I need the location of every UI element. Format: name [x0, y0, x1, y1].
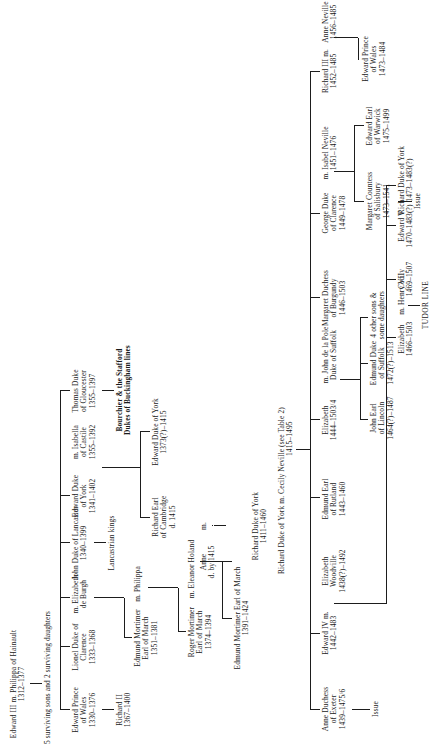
connector-delapole-children-bus — [360, 318, 361, 420]
connector-york-children-bus — [140, 432, 141, 518]
label-tudor-line: TUDOR LINE — [422, 274, 430, 336]
connector-lionel-to-philippa — [94, 597, 124, 598]
connector-gen1-drop-6 — [60, 390, 70, 391]
connector-roger-children-bus — [222, 562, 223, 619]
connector-drop-edmund-rutland — [310, 497, 320, 498]
node-issue-exeter: Issue — [372, 692, 380, 726]
connector-union-tick — [212, 525, 213, 526]
node-richard-earl-of-cambridge: Richard Earl of Cambridge d. 1415 — [152, 488, 177, 546]
connector-roger-drop — [178, 631, 186, 632]
node-john-earl-of-lincoln: John Earl of Lincoln 1464(?)–1487 — [370, 390, 395, 446]
node-eleanor-holand: m. Eleanor Holand — [188, 536, 196, 602]
connector-gen1-drop-3 — [60, 597, 70, 598]
node-edward-duke-of-york-2: Edward Duke of York 1373(?)–1415 — [152, 392, 169, 472]
root-dates: 1312–1377 — [18, 624, 26, 744]
node-edward-iii-root: Edward III m. Philippa of Hainault 1312–… — [10, 624, 27, 744]
connector-edward-iv-stem — [334, 603, 386, 604]
connector-drop-elizabeth — [310, 419, 320, 420]
node-anne-mortimer: Anne d. by 1415 — [200, 536, 217, 588]
connector-gen1-bus — [60, 496, 61, 710]
node-richard-york-cecily-neville-union: Richard Duke of York m. Cecily Neville (… — [278, 334, 295, 574]
node-elizabeth-of-york: Elizabeth 1466–1503 — [398, 314, 415, 364]
node-edmund-mortimer-earl-of-march: Edmund Mortimer Earl of March 1351–1381 — [134, 606, 159, 670]
node-edmund-mortimer-earl-of-march-2: Edmund Mortimer Earl of March 1391–1424 — [234, 560, 251, 676]
rotated-chart-frame: Edward III m. Philippa of Hainault 1312–… — [0, 0, 437, 750]
connector-drop-richard-iii — [310, 71, 320, 72]
connector-delapole-stem — [340, 379, 360, 380]
connector-york-family-stem — [296, 449, 310, 450]
connector-drop-edmund2 — [222, 618, 232, 619]
node-cecily: Cecily 1469–1507 — [398, 256, 415, 302]
node-edward-prince-of-wales-2: Edward Prince of Wales 1473–1484 — [362, 30, 387, 88]
node-edward-iv: Edward IV m. 1442–1483 — [322, 604, 339, 662]
node-other-children-suffolk: 4 other sons & some daughters — [370, 284, 387, 346]
connector-clarence-children-bus — [354, 126, 355, 202]
connector-henry-vii-to-tudor — [408, 305, 420, 306]
node-issue-salisbury: Issue — [414, 184, 422, 218]
connector-drop-cambridge — [140, 517, 150, 518]
node-roger-mortimer-earl-of-march: Roger Mortimer Earl of March 1374–1394 — [188, 600, 213, 664]
connector-clarence-stem — [334, 171, 354, 172]
connector-york-children-stem — [102, 467, 140, 468]
connector-drop-margaret-burgundy — [310, 297, 320, 298]
node-margaret-countess-of-salisbury: Margaret Countess of Salisbury 1473–1541 — [366, 166, 391, 236]
connector-drop-edward-york2 — [140, 431, 150, 432]
connector-gen1-drop-1 — [60, 709, 70, 710]
node-philippa: m. Philippa — [134, 562, 142, 606]
connector-philippa-to-roger — [148, 587, 178, 588]
connector-drop-anne-exeter — [310, 709, 320, 710]
connector-drop-george-clarence — [310, 213, 320, 214]
connector-drop-john-lincoln — [360, 419, 368, 420]
connector-drop-anne — [222, 561, 232, 562]
node-richard-ii: Richard II 1367–1400 — [116, 684, 133, 736]
connector-drop-edmund-suffolk — [360, 363, 368, 364]
node-elizabeth-woodville: Elizabeth Woodville 1438(?)–1492 — [322, 540, 347, 602]
connector-richard-iii-stem — [334, 37, 358, 38]
note-surviving-children: 5 surviving sons and 2 surviving daughte… — [44, 594, 52, 744]
connector-richard-iii-child-bus — [358, 38, 359, 60]
connector-gen1-drop-5 — [60, 495, 70, 496]
node-elizabeth-plantagenet: Elizabeth 1444–1503/4 — [322, 390, 339, 450]
node-edward-prince-of-wales: Edward Prince of Wales 1330–1376 — [72, 680, 97, 740]
connector-drop-cecily — [386, 279, 396, 280]
connector-drop-margaret-salisbury — [354, 201, 364, 202]
connector-root-stem — [30, 683, 42, 684]
connector-drop-other-children — [360, 317, 368, 318]
node-thomas-duke-of-gloucester: Thomas Duke of Gloucester 1355–1397 — [72, 362, 97, 420]
connector-gen1-drop-4 — [60, 542, 70, 543]
connector-gloucester-to-bourchier — [102, 390, 114, 391]
node-george-duke-of-clarence: George Duke of Clarence 1449–1478 — [322, 184, 347, 242]
node-lionel-duke-of-clarence: Lionel Duke of Clarence 1333–1368 — [72, 618, 97, 676]
node-anne-duchess-of-exeter: Anne Duchess of Exeter 1439–1475/6 — [322, 676, 347, 742]
node-edmund-earl-of-rutland: Edmund Earl of Rutland 1443–1460 — [322, 470, 347, 528]
node-richard-duke-of-york-3: Richard Duke of York 1473–1483(?) — [398, 138, 415, 222]
node-margaret-duchess-of-burgundy: Margaret Duchess of Burgundy 1446–1503 — [322, 264, 347, 332]
node-isabel-neville: m. Isabel Neville 1451–1476 — [322, 120, 339, 186]
genealogical-chart: Edward III m. Philippa of Hainault 1312–… — [0, 0, 437, 750]
node-richard-iii: Richard III m. 1452–1485 — [322, 42, 339, 100]
connector-drop-edward-iv — [310, 633, 320, 634]
connector-york-children-main-bus — [310, 72, 311, 710]
node-lancastrian-kings: Lancastrian kings — [108, 506, 116, 580]
node-richard-duke-of-york: Richard Duke of York 1411–1460 — [252, 478, 269, 574]
connector-gen1-drop-2 — [60, 646, 70, 647]
node-bourchier-stafford-lines: Bourchier & the Stafford Dukes of Buckin… — [116, 342, 133, 438]
node-edward-duke-of-york: Edward Duke of York 1341–1402 — [72, 468, 97, 524]
connector-philippa-bus — [124, 598, 125, 638]
connector-cambridge-anne-union — [214, 525, 226, 526]
node-edward-earl-of-warwick: Edward Earl of Warwick 1475–1499 — [366, 98, 391, 154]
connector-gen1-bus-ext — [60, 391, 61, 496]
connector-gaunt-to-lancastrian — [94, 542, 106, 543]
connector-edward-to-richard-ii — [102, 709, 114, 710]
node-marriage-marker: m. — [200, 518, 208, 534]
connector-drop-edward-warwick — [354, 125, 364, 126]
connector-roger-bus — [178, 588, 179, 632]
node-isabella-of-castile: m. Isabella of Castile 1355–1392 — [72, 416, 97, 468]
connector-exeter-to-issue — [352, 709, 370, 710]
connector-philippa-drop — [124, 637, 132, 638]
